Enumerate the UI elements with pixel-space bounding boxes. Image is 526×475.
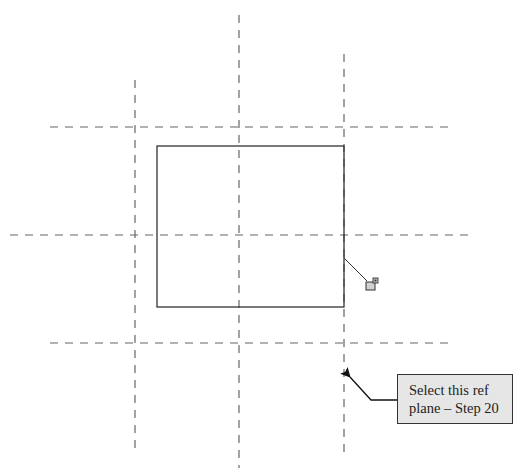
callout-line-2: plane – Step 20 <box>409 399 512 417</box>
lock-icon[interactable] <box>366 278 378 290</box>
sketch-rectangle[interactable] <box>157 146 344 307</box>
lock-leader-line <box>344 258 367 281</box>
callout-arrow <box>350 377 397 400</box>
callout-line-1: Select this ref <box>409 381 512 399</box>
callout-box: Select this ref plane – Step 20 <box>397 374 513 424</box>
